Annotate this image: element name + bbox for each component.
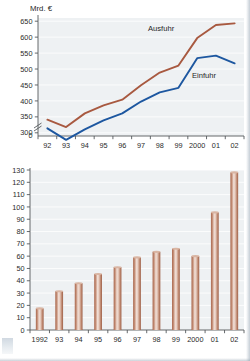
- bar-y-tick-label: 80: [16, 227, 24, 236]
- bar-y-tick-label: 30: [16, 289, 24, 298]
- bar-cap: [36, 307, 44, 309]
- bar-cap: [94, 273, 102, 275]
- bar-cap: [211, 211, 219, 213]
- bar-cap: [172, 248, 180, 250]
- line-x-tick-label: 02: [231, 141, 239, 150]
- bar: [114, 267, 122, 330]
- line-x-tick-label: 96: [118, 141, 126, 150]
- bar-x-tick-label: 94: [75, 335, 83, 344]
- bar-y-tick-label: 60: [16, 252, 24, 261]
- bar: [94, 274, 102, 330]
- bar-y-tick-label: 40: [16, 276, 24, 285]
- bar: [75, 283, 83, 330]
- bar-x-tick-label: 96: [113, 335, 121, 344]
- line-x-tick-label: 01: [212, 141, 220, 150]
- line-x-tick-label: 92: [43, 141, 51, 150]
- bar: [133, 257, 141, 330]
- bar-x-tick-label: 93: [55, 335, 63, 344]
- bar-x-tick-label: 01: [211, 335, 219, 344]
- series-label-einfuhr: Einfuhr: [192, 71, 217, 80]
- line-y-tick-label: 650: [20, 17, 32, 26]
- line-x-tick-label: 93: [62, 141, 70, 150]
- bar: [55, 291, 63, 330]
- scan-artifact: [2, 338, 13, 354]
- bar-y-tick-label: 0: [20, 326, 24, 335]
- bar-y-tick-label: 100: [12, 203, 24, 212]
- bar-y-tick-label: 130: [12, 166, 24, 175]
- line-y-tick-label: 500: [20, 65, 32, 74]
- chart-figure: 3003504004505005506006500Mrd. €929394959…: [0, 0, 250, 361]
- bar: [230, 172, 238, 330]
- line-y-tick-label: 450: [20, 81, 32, 90]
- line-x-tick-label: 95: [99, 141, 107, 150]
- line-chart-panel: 3003504004505005506006500Mrd. €929394959…: [0, 0, 250, 162]
- line-x-tick-label: 98: [156, 141, 164, 150]
- bar-y-tick-label: 110: [13, 190, 25, 199]
- bar-x-tick-label: 98: [152, 335, 160, 344]
- line-y-tick-label-zero: 0: [28, 131, 32, 140]
- bar-y-tick-label: 50: [16, 264, 24, 273]
- series-label-ausfuhr: Ausfuhr: [148, 24, 175, 33]
- bar-x-tick-label: 2000: [187, 335, 203, 344]
- bar-y-tick-label: 20: [16, 301, 24, 310]
- bar: [153, 252, 161, 330]
- bar-cap: [114, 266, 122, 268]
- bar-cap: [133, 256, 141, 258]
- bar-y-tick-label: 10: [16, 313, 24, 322]
- line-x-tick-label: 99: [174, 141, 182, 150]
- bar-x-tick-label: 1992: [32, 335, 48, 344]
- line-y-tick-label: 550: [20, 49, 32, 58]
- line-y-tick-label: 600: [20, 33, 32, 42]
- bar-cap: [55, 290, 63, 292]
- bar-y-tick-label: 90: [16, 215, 24, 224]
- line-y-tick-label: 350: [20, 112, 32, 121]
- bar: [36, 308, 44, 330]
- bar-chart-svg: 0102030405060708090100110120130199293949…: [0, 162, 250, 361]
- bar-x-tick-label: 99: [172, 335, 180, 344]
- page-right-edge-shadow: [246, 0, 250, 361]
- bar-cap: [191, 255, 199, 257]
- bar-x-tick-label: 97: [133, 335, 141, 344]
- line-chart-svg: 3003504004505005506006500Mrd. €929394959…: [0, 0, 250, 162]
- bar: [211, 212, 219, 330]
- line-x-tick-label: 2000: [189, 141, 205, 150]
- bar-x-tick-label: 95: [94, 335, 102, 344]
- line-y-axis-title: Mrd. €: [30, 4, 53, 13]
- bar: [191, 256, 199, 330]
- bar-chart-panel: 0102030405060708090100110120130199293949…: [0, 162, 250, 361]
- bar: [172, 249, 180, 330]
- bar-cap: [230, 171, 238, 173]
- bar-cap: [75, 282, 83, 284]
- line-x-tick-label: 94: [81, 141, 89, 150]
- line-x-tick-label: 97: [137, 141, 145, 150]
- bar-cap: [153, 251, 161, 253]
- line-y-tick-label: 400: [20, 97, 32, 106]
- bar-x-tick-label: 02: [230, 335, 238, 344]
- bar-y-tick-label: 70: [16, 239, 24, 248]
- bar-y-tick-label: 120: [12, 178, 24, 187]
